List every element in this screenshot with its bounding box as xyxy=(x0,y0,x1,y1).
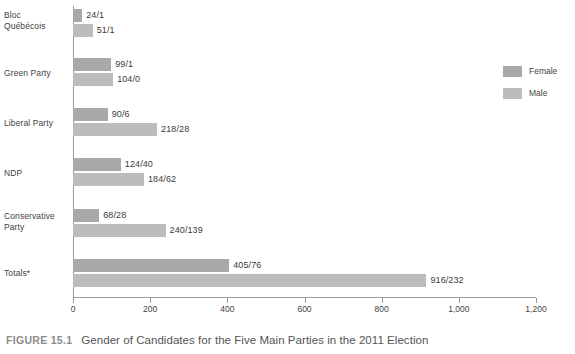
bar-value-label: 90/6 xyxy=(112,108,130,121)
legend-label: Male xyxy=(529,86,547,101)
x-axis-tick xyxy=(73,298,74,303)
x-axis-tick-label: 800 xyxy=(375,304,389,314)
bar-value-label: 124/40 xyxy=(125,158,153,171)
legend-swatch-male xyxy=(503,88,522,99)
bar-value-label: 916/232 xyxy=(430,274,463,287)
figure-title: Gender of Candidates for the Five Main P… xyxy=(81,334,428,346)
category-axis-labels: BlocQuébécoisGreen PartyLiberal PartyNDP… xyxy=(4,0,70,288)
bar-value-label: 240/139 xyxy=(170,224,203,237)
bar-male xyxy=(73,123,157,136)
legend-item: Male xyxy=(503,86,573,108)
bar-value-label: 218/28 xyxy=(161,123,189,136)
category-label: Totals* xyxy=(4,268,70,279)
figure-container: BlocQuébécoisGreen PartyLiberal PartyNDP… xyxy=(0,0,575,354)
x-axis-tick-label: 200 xyxy=(143,304,157,314)
bar-female xyxy=(73,158,121,171)
category-label: Green Party xyxy=(4,68,70,79)
x-axis-tick xyxy=(459,298,460,303)
bars-group: 24/151/199/1104/090/6218/28124/40184/626… xyxy=(73,0,543,297)
bar-female xyxy=(73,108,108,121)
bar-male xyxy=(73,24,93,37)
legend-label: Female xyxy=(529,64,557,79)
x-axis-tick-label: 600 xyxy=(297,304,311,314)
category-label: ConservativeParty xyxy=(4,211,70,232)
bar-value-label: 99/1 xyxy=(115,58,133,71)
legend-swatch-female xyxy=(503,66,522,77)
bar-value-label: 68/28 xyxy=(103,209,126,222)
x-axis-tick-label: 0 xyxy=(71,304,76,314)
legend-item: Female xyxy=(503,64,573,86)
figure-caption: FIGURE 15.1Gender of Candidates for the … xyxy=(6,330,572,350)
chart-legend: FemaleMale xyxy=(503,64,573,108)
x-axis-tick-label: 1,000 xyxy=(448,304,469,314)
bar-female xyxy=(73,58,111,71)
category-label: Liberal Party xyxy=(4,118,70,129)
x-axis-tick xyxy=(227,298,228,303)
category-label: BlocQuébécois xyxy=(4,10,70,31)
bar-value-label: 184/62 xyxy=(148,173,176,186)
x-axis-tick-label: 1,200 xyxy=(525,304,546,314)
bar-value-label: 104/0 xyxy=(117,73,140,86)
bar-male xyxy=(73,224,166,237)
bar-male xyxy=(73,73,113,86)
category-label: NDP xyxy=(4,168,70,179)
bar-male xyxy=(73,274,426,287)
bar-female xyxy=(73,259,229,272)
x-axis-tick xyxy=(536,298,537,303)
bar-male xyxy=(73,173,144,186)
bar-value-label: 51/1 xyxy=(97,24,115,37)
x-axis-tick xyxy=(305,298,306,303)
bar-female xyxy=(73,209,99,222)
figure-number: FIGURE 15.1 xyxy=(6,334,72,346)
x-axis-tick xyxy=(150,298,151,303)
bar-female xyxy=(73,9,82,22)
bar-value-label: 24/1 xyxy=(86,9,104,22)
x-axis-tick xyxy=(382,298,383,303)
x-axis-tick-label: 400 xyxy=(220,304,234,314)
bar-chart: BlocQuébécoisGreen PartyLiberal PartyNDP… xyxy=(0,0,575,318)
bar-value-label: 405/76 xyxy=(233,259,261,272)
